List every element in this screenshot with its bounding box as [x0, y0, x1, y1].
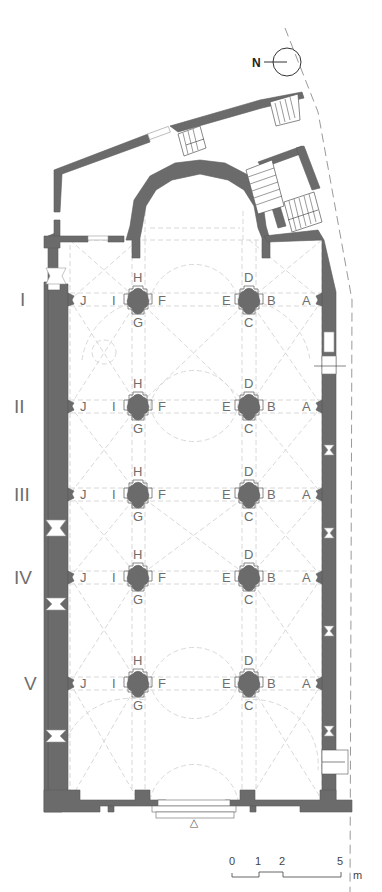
pier-labels-row-2: J H I F G D E B C A: [80, 376, 311, 436]
label-i: I: [112, 293, 116, 308]
bay-label-4: IV: [14, 567, 32, 588]
label-h: H: [133, 464, 142, 479]
label-a: A: [302, 293, 311, 308]
label-c: C: [244, 421, 253, 436]
label-f: F: [158, 399, 166, 414]
label-f: F: [158, 487, 166, 502]
scale-bar: 0 1 2 5 m: [229, 855, 362, 881]
bay-label-3: III: [14, 484, 30, 505]
pier-labels-row-3: J H I F G D E B C A: [80, 464, 311, 524]
label-i: I: [112, 399, 116, 414]
bay-label-5: V: [24, 673, 37, 694]
label-d: D: [244, 464, 253, 479]
label-f: F: [158, 676, 166, 691]
label-j: J: [80, 676, 87, 691]
label-g: G: [133, 315, 143, 330]
label-a: A: [302, 676, 311, 691]
label-b: B: [267, 293, 276, 308]
label-a: A: [302, 570, 311, 585]
east-stair: [284, 192, 322, 232]
east-side-door: [314, 356, 346, 374]
scale-tick-1: 1: [255, 855, 261, 867]
label-i: I: [112, 570, 116, 585]
label-h: H: [133, 376, 142, 391]
scale-tick-2: 2: [279, 855, 285, 867]
label-g: G: [133, 421, 143, 436]
label-b: B: [267, 487, 276, 502]
label-e: E: [222, 399, 231, 414]
label-e: E: [222, 293, 231, 308]
label-e: E: [222, 570, 231, 585]
entrance-triangle-icon: △: [190, 816, 199, 829]
label-g: G: [133, 509, 143, 524]
label-h: H: [133, 653, 142, 668]
label-c: C: [244, 509, 253, 524]
label-h: H: [133, 547, 142, 562]
label-g: G: [133, 592, 143, 607]
label-i: I: [112, 487, 116, 502]
label-d: D: [244, 653, 253, 668]
label-c: C: [244, 315, 253, 330]
floor-plan: N: [0, 0, 382, 892]
label-j: J: [80, 293, 87, 308]
label-d: D: [244, 547, 253, 562]
label-a: A: [302, 399, 311, 414]
label-f: F: [158, 293, 166, 308]
label-c: C: [244, 698, 253, 713]
bay-label-2: II: [14, 396, 25, 417]
label-b: B: [267, 570, 276, 585]
pier-labels-row-4: J H I F G D E B C A: [80, 547, 311, 607]
north-arrow-icon: N: [252, 48, 301, 76]
scale-unit: m: [353, 869, 362, 881]
label-b: B: [267, 399, 276, 414]
tower-stair: [246, 160, 284, 214]
vault-guides: [60, 210, 322, 805]
label-b: B: [267, 676, 276, 691]
label-e: E: [222, 487, 231, 502]
label-d: D: [244, 270, 253, 285]
scale-tick-0: 0: [229, 855, 235, 867]
label-f: F: [158, 570, 166, 585]
north-label: N: [252, 56, 261, 70]
label-j: J: [80, 487, 87, 502]
scale-tick-5: 5: [337, 855, 343, 867]
label-c: C: [244, 592, 253, 607]
label-j: J: [80, 399, 87, 414]
label-i: I: [112, 676, 116, 691]
label-e: E: [222, 676, 231, 691]
pier-labels-row-5: J H I F G D E B C A: [80, 653, 311, 713]
bay-label-1: I: [20, 289, 25, 310]
label-j: J: [80, 570, 87, 585]
label-h: H: [133, 270, 142, 285]
southeast-door: [322, 750, 348, 774]
label-a: A: [302, 487, 311, 502]
bay-labels: I II III IV V: [14, 289, 37, 694]
label-d: D: [244, 376, 253, 391]
label-g: G: [133, 698, 143, 713]
